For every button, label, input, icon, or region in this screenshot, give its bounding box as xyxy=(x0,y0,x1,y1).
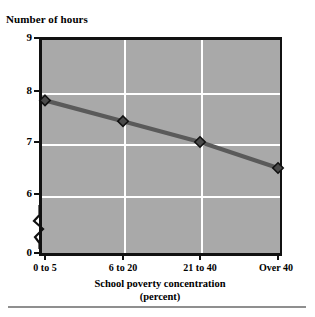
data-point-marker-6-to-20 xyxy=(118,116,128,126)
series-line xyxy=(45,100,278,168)
footer-divider xyxy=(8,306,306,308)
data-point-marker-over-40 xyxy=(273,163,283,173)
data-point-marker-0-to-5 xyxy=(40,95,50,105)
chart-figure: Number of hours 9 8 7 6 0 0 to 5 6 to 20… xyxy=(0,0,315,317)
x-axis-title-unit: (percent) xyxy=(40,290,280,303)
data-series-layer xyxy=(0,0,315,317)
data-point-marker-21-to-40 xyxy=(195,137,205,147)
x-axis-title-main: School poverty concentration xyxy=(94,278,225,289)
x-axis-title: School poverty concentration (percent) xyxy=(40,277,280,303)
line-series-number-of-hours xyxy=(40,95,283,173)
